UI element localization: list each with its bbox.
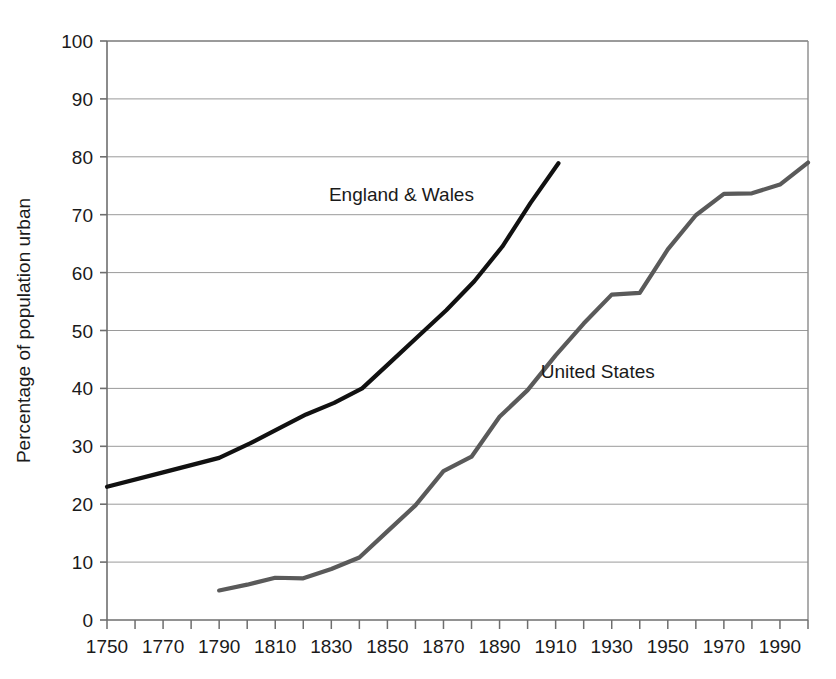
y-axis-title: Percentage of population urban	[13, 198, 34, 463]
y-tick-label-30: 30	[72, 436, 93, 457]
y-tick-label-10: 10	[72, 552, 93, 573]
y-tick-label-80: 80	[72, 147, 93, 168]
chart-background	[0, 0, 836, 679]
x-tick-label-1990: 1990	[759, 636, 801, 657]
y-tick-label-90: 90	[72, 89, 93, 110]
series-label-0: England & Wales	[329, 184, 474, 205]
y-tick-label-100: 100	[61, 31, 93, 52]
y-tick-label-70: 70	[72, 205, 93, 226]
x-tick-label-1850: 1850	[366, 636, 408, 657]
x-tick-label-1770: 1770	[142, 636, 184, 657]
line-chart: 0102030405060708090100 17501770179018101…	[0, 0, 836, 679]
y-tick-label-50: 50	[72, 321, 93, 342]
y-tick-label-60: 60	[72, 263, 93, 284]
y-tick-label-0: 0	[82, 610, 93, 631]
y-axis-title-text: Percentage of population urban	[13, 198, 34, 463]
x-tick-label-1950: 1950	[647, 636, 689, 657]
x-tick-label-1750: 1750	[86, 636, 128, 657]
x-tick-label-1890: 1890	[478, 636, 520, 657]
x-tick-label-1910: 1910	[534, 636, 576, 657]
x-tick-label-1830: 1830	[310, 636, 352, 657]
x-tick-label-1930: 1930	[591, 636, 633, 657]
x-tick-label-1790: 1790	[198, 636, 240, 657]
y-tick-label-40: 40	[72, 378, 93, 399]
x-tick-label-1810: 1810	[254, 636, 296, 657]
chart-container: 0102030405060708090100 17501770179018101…	[0, 0, 836, 679]
x-tick-label-1870: 1870	[422, 636, 464, 657]
series-label-1: United States	[541, 361, 655, 382]
y-tick-label-20: 20	[72, 494, 93, 515]
x-tick-label-1970: 1970	[703, 636, 745, 657]
